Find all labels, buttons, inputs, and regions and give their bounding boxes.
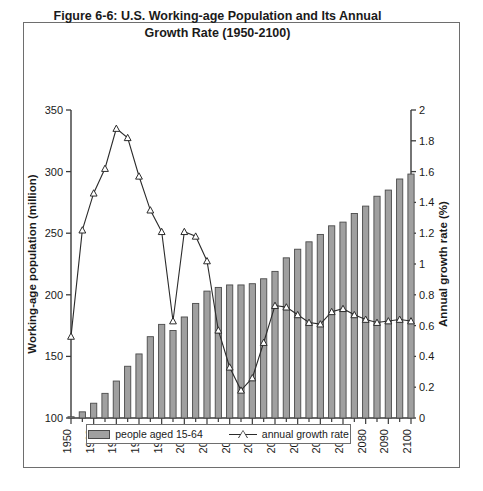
legend-entry-bar: people aged 15-64 <box>88 428 203 440</box>
chart-legend: people aged 15-64 annual growth rate <box>86 424 351 444</box>
bar <box>397 179 403 418</box>
bar <box>272 271 278 418</box>
legend-label-line: annual growth rate <box>262 428 349 440</box>
growth-rate-marker <box>192 233 199 239</box>
bar <box>136 354 142 418</box>
bar <box>295 249 301 418</box>
bar <box>204 291 210 418</box>
bar <box>102 393 108 418</box>
bar <box>385 190 391 418</box>
right-axis-tick-label: 2 <box>419 104 425 116</box>
right-axis-tick-label: 1.2 <box>419 227 434 239</box>
growth-rate-marker <box>102 165 109 171</box>
bar <box>283 258 289 418</box>
growth-rate-marker <box>170 318 177 324</box>
bar <box>227 285 233 418</box>
left-axis-tick-label: 250 <box>45 227 63 239</box>
growth-rate-marker <box>181 228 188 234</box>
growth-rate-marker <box>68 333 75 339</box>
left-axis-tick-label: 200 <box>45 289 63 301</box>
growth-rate-marker <box>147 207 154 213</box>
x-axis-tick-label: 2090 <box>378 429 390 453</box>
x-axis-tick-label: 2080 <box>356 429 368 453</box>
bar <box>68 417 74 418</box>
bar <box>79 412 85 418</box>
left-axis-title: Working-age population (million) <box>26 174 38 353</box>
growth-rate-marker <box>90 190 97 196</box>
line-marker-icon <box>229 430 257 439</box>
right-axis-tick-label: 0.6 <box>419 320 434 332</box>
legend-label-bar: people aged 15-64 <box>115 428 203 440</box>
bar <box>170 331 176 418</box>
x-axis-tick-label: 2100 <box>401 429 413 453</box>
bar <box>193 303 199 418</box>
bar-swatch-icon <box>88 430 110 439</box>
growth-rate-marker <box>113 125 120 131</box>
bar <box>238 285 244 418</box>
left-axis-tick-label: 100 <box>45 412 63 424</box>
bar <box>215 287 221 418</box>
bar <box>125 366 131 418</box>
right-axis-tick-label: 0 <box>419 412 425 424</box>
bar <box>374 196 380 418</box>
x-axis-tick-label: 1950 <box>61 429 73 453</box>
bar <box>340 222 346 418</box>
bar <box>329 226 335 418</box>
right-axis-tick-label: 0.8 <box>419 289 434 301</box>
right-axis-title: Annual growth rate (%) <box>437 201 449 327</box>
bar <box>159 324 165 418</box>
bar <box>147 337 153 418</box>
left-axis-tick-label: 300 <box>45 166 63 178</box>
right-axis-tick-label: 1.4 <box>419 196 434 208</box>
bar <box>91 403 97 418</box>
right-axis-tick-label: 1 <box>419 258 425 270</box>
growth-rate-marker <box>204 258 211 264</box>
growth-rate-marker <box>158 228 165 234</box>
right-axis-tick-label: 0.2 <box>419 381 434 393</box>
legend-entry-line: annual growth rate <box>229 428 349 440</box>
bar <box>306 242 312 418</box>
bar <box>363 206 369 418</box>
growth-rate-marker <box>79 227 86 233</box>
bar <box>408 174 414 418</box>
chart-canvas: 10015020025030035000.20.40.60.811.21.41.… <box>0 0 483 491</box>
bar <box>113 381 119 418</box>
bar <box>249 284 255 418</box>
right-axis-tick-label: 1.6 <box>419 166 434 178</box>
growth-rate-marker <box>136 173 143 179</box>
bar <box>181 317 187 418</box>
right-axis-tick-label: 1.8 <box>419 135 434 147</box>
left-axis-tick-label: 150 <box>45 350 63 362</box>
left-axis-tick-label: 350 <box>45 104 63 116</box>
right-axis-tick-label: 0.4 <box>419 350 434 362</box>
